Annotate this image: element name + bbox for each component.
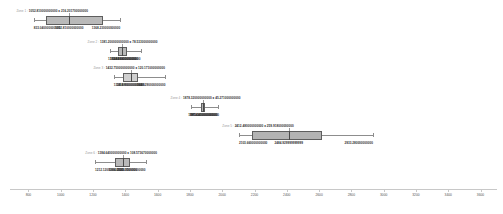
zone-group: Zone 6 : 1384.640000000000 ± 108.5736700… xyxy=(0,151,503,175)
whisker-cap xyxy=(373,133,374,137)
x-axis-tick-label: 800 xyxy=(26,193,32,197)
mean-tick xyxy=(122,44,123,47)
whisker-cap xyxy=(191,105,192,109)
zone-group: Zone 1 : 1052.810000000000 ± 216.2017000… xyxy=(0,9,503,33)
x-axis-tick-label: 1800 xyxy=(186,193,193,197)
mean-tick xyxy=(69,13,70,16)
whisker-cap xyxy=(95,160,96,164)
zone-stat: 1381.200000000000 ± 78.533000000000 xyxy=(100,40,157,44)
zone-stat: 1878.320000000000 ± 45.271000000000 xyxy=(183,96,240,100)
x-axis-tick xyxy=(448,189,449,192)
zone-title: Zone 1 : 1052.810000000000 ± 216.2017000… xyxy=(16,9,88,13)
x-axis-tick xyxy=(93,189,94,192)
zone-tag: Zone 3 : xyxy=(93,66,105,70)
x-axis-tick xyxy=(255,189,256,192)
median-line xyxy=(131,73,132,82)
whisker-high-label: 2933.280000000000 xyxy=(345,141,373,145)
median-line xyxy=(69,16,70,25)
zone-group: Zone 5 : 2412.480000000000 ± 259.9180000… xyxy=(0,124,503,148)
whisker-cap xyxy=(120,18,121,22)
x-axis-tick-label: 3200 xyxy=(412,193,419,197)
median-line xyxy=(122,47,123,56)
zone-box[interactable] xyxy=(46,16,103,25)
x-axis-tick-label: 1600 xyxy=(154,193,161,197)
x-axis-tick-label: 1200 xyxy=(89,193,96,197)
zone-box[interactable] xyxy=(252,131,322,140)
x-axis-tick-label: 3400 xyxy=(445,193,452,197)
x-axis-tick-label: 2400 xyxy=(283,193,290,197)
whisker-cap xyxy=(114,75,115,79)
whisker-cap xyxy=(34,18,35,22)
median-label: 2484.929999999999 xyxy=(275,141,303,145)
zone-tag: Zone 2 : xyxy=(88,40,100,44)
whisker-high-label: 1368.230000000000 xyxy=(92,26,120,30)
x-axis-tick xyxy=(287,189,288,192)
whisker-line xyxy=(114,77,166,78)
zone-tag: Zone 1 : xyxy=(16,9,28,13)
x-axis-tick-label: 2800 xyxy=(348,193,355,197)
x-axis-tick xyxy=(351,189,352,192)
whisker-cap xyxy=(239,133,240,137)
boxplot-chart: Zone 1 : 1052.810000000000 ± 216.2017000… xyxy=(0,0,503,214)
whisker-cap xyxy=(218,105,219,109)
median-line xyxy=(289,131,290,140)
whisker-cap xyxy=(146,160,147,164)
x-axis-tick-label: 1000 xyxy=(57,193,64,197)
x-axis-tick xyxy=(125,189,126,192)
whisker-high-label: 1648.290000000000 xyxy=(137,83,165,87)
zone-stat: 2412.480000000000 ± 259.918000000000 xyxy=(235,124,294,128)
x-axis-tick xyxy=(222,189,223,192)
x-axis-tick xyxy=(319,189,320,192)
zone-tag: Zone 6 : xyxy=(85,151,97,155)
x-axis-tick xyxy=(190,189,191,192)
plot-area: Zone 1 : 1052.810000000000 ± 216.2017000… xyxy=(0,0,503,186)
zone-group: Zone 2 : 1381.200000000000 ± 78.53300000… xyxy=(0,40,503,64)
zone-stat: 1384.640000000000 ± 108.573670000000 xyxy=(98,151,157,155)
zone-group: Zone 3 : 1432.750000000000 ± 120.1710000… xyxy=(0,66,503,90)
x-axis-tick-label: 2600 xyxy=(315,193,322,197)
x-axis-tick-label: 1400 xyxy=(122,193,129,197)
mean-tick xyxy=(131,70,132,73)
zone-tag: Zone 5 : xyxy=(222,124,234,128)
x-axis-tick xyxy=(384,189,385,192)
median-line xyxy=(203,103,204,112)
median-label: 1052.810000000000 xyxy=(55,26,83,30)
x-axis: 8001000120014001600180020002200240026002… xyxy=(0,189,503,214)
whisker-cap xyxy=(110,49,111,53)
zone-stat: 1432.750000000000 ± 120.171000000000 xyxy=(106,66,165,70)
x-axis-tick xyxy=(28,189,29,192)
mean-tick xyxy=(123,155,124,158)
x-axis-tick-label: 3600 xyxy=(477,193,484,197)
zone-title: Zone 3 : 1432.750000000000 ± 120.1710000… xyxy=(93,66,165,70)
whisker-cap xyxy=(141,49,142,53)
whisker-high-label: 1525.350000000000 xyxy=(117,168,145,172)
whisker-high-label: 1494.040000000000 xyxy=(112,57,140,61)
x-axis-tick-label: 3000 xyxy=(380,193,387,197)
whisker-low-label: 2103.660000000000 xyxy=(239,141,267,145)
x-axis-tick xyxy=(416,189,417,192)
zone-title: Zone 6 : 1384.640000000000 ± 108.5736700… xyxy=(85,151,157,155)
zone-title: Zone 5 : 2412.480000000000 ± 259.9180000… xyxy=(222,124,294,128)
x-axis-tick-label: 2000 xyxy=(219,193,226,197)
x-axis-tick xyxy=(481,189,482,192)
x-axis-line xyxy=(10,189,497,190)
x-axis-tick-label: 2200 xyxy=(251,193,258,197)
zone-tag: Zone 4 : xyxy=(171,96,183,100)
whisker-high-label: 1972.540000000000 xyxy=(189,113,217,117)
mean-tick xyxy=(203,100,204,103)
mean-tick xyxy=(289,128,290,131)
zone-group: Zone 4 : 1878.320000000000 ± 45.27100000… xyxy=(0,96,503,120)
x-axis-tick xyxy=(61,189,62,192)
zone-title: Zone 4 : 1878.320000000000 ± 45.27100000… xyxy=(171,96,241,100)
whisker-cap xyxy=(165,75,166,79)
x-axis-tick xyxy=(158,189,159,192)
zone-stat: 1052.810000000000 ± 216.201700000000 xyxy=(29,9,88,13)
median-line xyxy=(123,158,124,167)
